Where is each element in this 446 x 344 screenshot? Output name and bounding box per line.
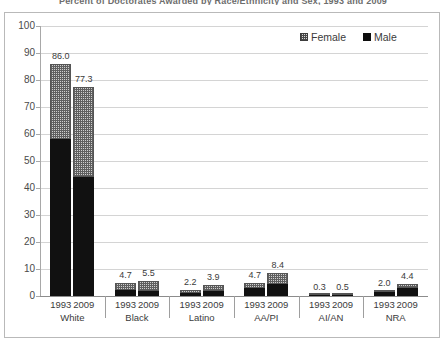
bar-value-label: 8.4 — [261, 261, 294, 270]
y-axis-tick-mark — [36, 107, 40, 108]
y-axis-tick-label: 80 — [5, 75, 35, 85]
y-axis-tick-mark — [36, 188, 40, 189]
y-axis-tick-mark — [36, 134, 40, 135]
bar-black-1993 — [115, 283, 136, 296]
y-axis-tick-mark — [36, 242, 40, 243]
plot-area: 86.077.34.75.52.23.94.78.40.30.52.04.4 — [40, 26, 428, 296]
x-axis-group-label: Black — [105, 313, 170, 323]
y-axis-tick-label: 70 — [5, 102, 35, 112]
bar-segment-male — [267, 284, 288, 296]
y-axis-tick-label: 20 — [5, 237, 35, 247]
bar-segment-female — [180, 290, 201, 293]
bar-white-2009 — [73, 87, 94, 296]
bar-value-label: 4.4 — [391, 272, 424, 281]
bar-value-label: 0.5 — [326, 283, 359, 292]
bar-segment-male — [50, 139, 71, 296]
bars-layer: 86.077.34.75.52.23.94.78.40.30.52.04.4 — [40, 26, 428, 296]
x-axis-group-label: Latino — [169, 313, 234, 323]
bar-black-2009 — [138, 281, 159, 296]
y-axis-tick-mark — [36, 161, 40, 162]
bar-value-label: 3.9 — [197, 273, 230, 282]
bar-segment-female — [115, 283, 136, 290]
legend-swatch-male-icon — [363, 33, 371, 41]
legend-item-female: Female — [300, 32, 346, 43]
y-axis-tick-label: 40 — [5, 183, 35, 193]
y-axis-tick-label: 90 — [5, 48, 35, 58]
bar-segment-female — [73, 87, 94, 177]
x-axis-group-label: AA/PI — [234, 313, 299, 323]
chart-legend: FemaleMale — [300, 30, 397, 44]
bar-value-label: 77.3 — [67, 75, 100, 84]
x-axis-year-label: 2009 — [326, 300, 359, 310]
bar-segment-female — [138, 281, 159, 290]
x-axis-year-label: 2009 — [197, 300, 230, 310]
x-axis-year-label: 2009 — [261, 300, 294, 310]
bar-segment-male — [73, 177, 94, 296]
bar-nra-2009 — [397, 284, 418, 296]
bar-value-label: 86.0 — [44, 52, 77, 61]
bar-segment-female — [244, 283, 265, 288]
bar-segment-female — [332, 293, 353, 295]
legend-label: Female — [311, 32, 346, 43]
y-axis-tick-mark — [36, 269, 40, 270]
bar-segment-female — [203, 285, 224, 291]
bar-aa-pi-1993 — [244, 283, 265, 296]
chart-title: Percent of Doctorates Awarded by Race/Et… — [0, 0, 446, 5]
x-axis-year-label: 2009 — [67, 300, 100, 310]
y-axis-tick-mark — [36, 80, 40, 81]
x-axis-labels: 19932009White19932009Black19932009Latino… — [40, 296, 428, 336]
legend-item-male: Male — [363, 32, 397, 43]
x-axis-year-label: 2009 — [391, 300, 424, 310]
y-axis-tick-label: 50 — [5, 156, 35, 166]
bar-value-label: 5.5 — [132, 269, 165, 278]
x-axis-group-label: AI/AN — [299, 313, 364, 323]
y-axis-tick-label: 10 — [5, 264, 35, 274]
bar-segment-female — [267, 273, 288, 283]
y-axis-tick-mark — [36, 215, 40, 216]
legend-swatch-female-icon — [300, 33, 308, 41]
x-axis-group-label: NRA — [363, 313, 428, 323]
x-axis-year-label: 2009 — [132, 300, 165, 310]
bar-segment-female — [309, 293, 330, 295]
bar-segment-male — [244, 288, 265, 296]
chart-container: Percent of Doctorates Awarded by Race/Et… — [0, 0, 446, 344]
y-axis-tick-label: 30 — [5, 210, 35, 220]
y-axis-tick-mark — [36, 26, 40, 27]
bar-white-1993 — [50, 64, 71, 296]
bar-segment-female — [374, 290, 395, 292]
x-axis-group-label: White — [40, 313, 105, 323]
bar-segment-female — [397, 284, 418, 288]
y-axis-tick-label: 0 — [5, 291, 35, 301]
y-axis-tick-label: 60 — [5, 129, 35, 139]
bar-segment-male — [397, 288, 418, 296]
y-axis-tick-label: 100 — [5, 21, 35, 31]
bar-latino-2009 — [203, 285, 224, 296]
legend-label: Male — [374, 32, 397, 43]
bar-aa-pi-2009 — [267, 273, 288, 296]
y-axis-tick-mark — [36, 53, 40, 54]
